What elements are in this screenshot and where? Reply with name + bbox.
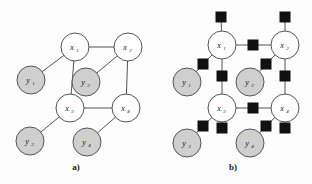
- node-label-y3: y: [181, 139, 186, 148]
- factor-node-f-top-x2[interactable]: [280, 12, 290, 22]
- node-y2[interactable]: y2: [236, 68, 264, 96]
- factor-node-f-x1-x3[interactable]: [217, 71, 227, 81]
- factor-node-f-x3-y4[interactable]: [217, 123, 227, 133]
- node-y3[interactable]: y3: [173, 129, 201, 157]
- node-circle-x1: [61, 33, 89, 61]
- node-label-x4: x: [279, 104, 284, 113]
- panel-b-caption: b): [229, 162, 237, 172]
- node-circle-y1: [173, 68, 201, 96]
- node-label-y2: y: [80, 78, 85, 87]
- node-circle-x3: [56, 94, 84, 122]
- node-subscript-y1: 1: [32, 81, 35, 86]
- node-circle-y4: [73, 128, 101, 156]
- figure-container: x1x2x3x4y1y2y3y4a)x1x2x3x4y1y2y3y4b): [0, 0, 312, 184]
- panel-a: x1x2x3x4y1y2y3y4a): [16, 33, 142, 172]
- node-label-x2: x: [279, 41, 284, 50]
- node-x1[interactable]: x1: [208, 31, 236, 59]
- node-circle-y2: [72, 68, 100, 96]
- node-x4[interactable]: x4: [112, 94, 140, 122]
- node-circle-x4: [112, 94, 140, 122]
- node-y4[interactable]: y4: [236, 129, 264, 157]
- node-label-x4: x: [120, 104, 125, 113]
- node-circle-x3: [208, 94, 236, 122]
- node-x3[interactable]: x3: [208, 94, 236, 122]
- factor-node-f-x3-y3[interactable]: [198, 121, 208, 131]
- node-label-y2: y: [244, 78, 249, 87]
- node-circle-y3: [16, 127, 44, 155]
- node-x3[interactable]: x3: [56, 94, 84, 122]
- node-label-y1: y: [181, 78, 186, 87]
- factor-node-f-x1-x2[interactable]: [248, 40, 258, 50]
- node-y4[interactable]: y4: [73, 128, 101, 156]
- node-subscript-x1: 1: [223, 46, 226, 51]
- factor-node-f-x2-y2[interactable]: [261, 59, 271, 69]
- graphical-model-figure: x1x2x3x4y1y2y3y4a)x1x2x3x4y1y2y3y4b): [0, 0, 312, 184]
- node-label-y4: y: [244, 139, 249, 148]
- node-subscript-x1: 1: [76, 48, 79, 53]
- node-y1[interactable]: y1: [17, 66, 45, 94]
- node-x2[interactable]: x2: [271, 31, 299, 59]
- node-label-x1: x: [216, 41, 221, 50]
- panel-a-caption: a): [72, 162, 80, 172]
- node-x2[interactable]: x2: [114, 33, 142, 61]
- node-label-x3: x: [216, 104, 221, 113]
- node-circle-y2: [236, 68, 264, 96]
- node-circle-y4: [236, 129, 264, 157]
- factor-node-f-top-x1[interactable]: [216, 12, 226, 22]
- factor-node-f-x1-y1[interactable]: [198, 59, 208, 69]
- node-label-y4: y: [81, 138, 86, 147]
- node-circle-x1: [208, 31, 236, 59]
- factor-node-f-x2-x4[interactable]: [280, 71, 290, 81]
- node-x4[interactable]: x4: [271, 94, 299, 122]
- node-y3[interactable]: y3: [16, 127, 44, 155]
- node-circle-x4: [271, 94, 299, 122]
- node-x1[interactable]: x1: [61, 33, 89, 61]
- factor-node-f-x4-bot[interactable]: [280, 123, 290, 133]
- node-subscript-y1: 1: [188, 83, 191, 88]
- node-circle-x2: [114, 33, 142, 61]
- node-label-x3: x: [64, 104, 69, 113]
- node-circle-y3: [173, 129, 201, 157]
- factor-node-f-x3-x4[interactable]: [248, 103, 258, 113]
- node-label-x2: x: [122, 43, 127, 52]
- factor-node-f-x4-y4[interactable]: [261, 121, 271, 131]
- node-circle-y1: [17, 66, 45, 94]
- node-circle-x2: [271, 31, 299, 59]
- node-y2[interactable]: y2: [72, 68, 100, 96]
- node-label-x1: x: [69, 43, 74, 52]
- node-label-y3: y: [24, 137, 29, 146]
- node-y1[interactable]: y1: [173, 68, 201, 96]
- panel-b: x1x2x3x4y1y2y3y4b): [173, 12, 299, 172]
- node-label-y1: y: [25, 76, 30, 85]
